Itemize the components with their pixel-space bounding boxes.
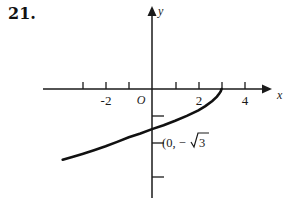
point-annotation: (0, − 3	[162, 133, 209, 150]
x-axis-variable-label: x	[276, 88, 283, 102]
point-label-radicand: 3	[199, 136, 205, 150]
point-label-text: (0, −	[162, 136, 186, 150]
y-axis-variable-label: y	[157, 4, 164, 18]
figure-root: 21. -2 2 4	[0, 0, 292, 206]
y-axis	[148, 6, 157, 198]
x-axis-arrow-icon	[262, 85, 272, 94]
x-axis	[43, 85, 272, 94]
x-tick-label-4: 4	[242, 93, 249, 108]
origin-label: O	[137, 93, 146, 107]
graph-plot: -2 2 4 O x y (0, − 3	[0, 0, 292, 206]
x-tick-label--2: -2	[101, 93, 112, 108]
y-axis-arrow-icon	[148, 6, 157, 16]
x-axis-ticks	[83, 82, 245, 89]
x-tick-label-2: 2	[196, 93, 203, 108]
